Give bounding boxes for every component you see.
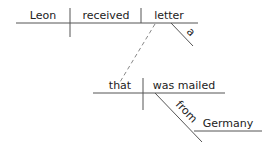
word-clause-subject: that bbox=[109, 79, 132, 92]
word-verb: received bbox=[82, 9, 129, 22]
word-preposition: from bbox=[173, 98, 200, 125]
relative-connector bbox=[120, 24, 155, 82]
word-prep-object: Germany bbox=[203, 117, 254, 130]
word-subject: Leon bbox=[30, 9, 56, 22]
word-modifier-a: a bbox=[184, 25, 198, 39]
word-clause-verb: was mailed bbox=[153, 79, 215, 92]
word-object: letter bbox=[154, 9, 184, 22]
sentence-diagram: Leon received letter a that was mailed f… bbox=[0, 0, 277, 152]
